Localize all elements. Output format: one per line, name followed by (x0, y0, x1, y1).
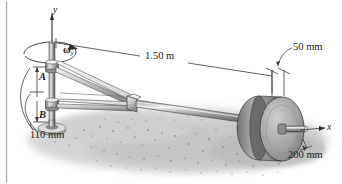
y-axis-label: y (53, 6, 57, 16)
disk-hub-nut (278, 124, 286, 134)
dimension-offset-50mm (266, 48, 292, 96)
dimension-label-offset: 50 mm (293, 42, 322, 53)
point-label-A: A (39, 72, 46, 83)
omega-subscript: y (71, 49, 74, 57)
point-label-B: B (39, 110, 46, 121)
dimension-label-bearings: 110 mm (30, 130, 64, 141)
omega-symbol: ω (63, 44, 71, 55)
y-axis-arrow (50, 13, 54, 44)
mechanics-figure: y x ωy A B 1.50 m 50 mm 200 mm 110 mm (0, 0, 342, 184)
triangular-yoke-bracket (56, 61, 141, 112)
bearing-collar-B (46, 98, 59, 111)
omega-y-label: ωy (63, 45, 74, 57)
dimension-label-diameter: 200 mm (288, 150, 323, 161)
x-axis-label: x (327, 123, 331, 133)
shaft-body (49, 42, 55, 128)
dimension-label-span: 1.50 m (145, 51, 174, 62)
